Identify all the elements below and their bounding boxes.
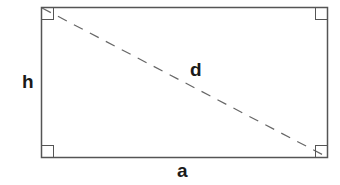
diagonal-label: d [190, 60, 202, 79]
width-label: a [177, 161, 188, 180]
height-label: h [22, 72, 34, 91]
right-angle-marker-top-right [316, 8, 328, 20]
diagonal-dashed-line [42, 8, 327, 157]
right-angle-marker-bottom-left [42, 146, 54, 158]
rectangle-diagram [0, 0, 340, 185]
